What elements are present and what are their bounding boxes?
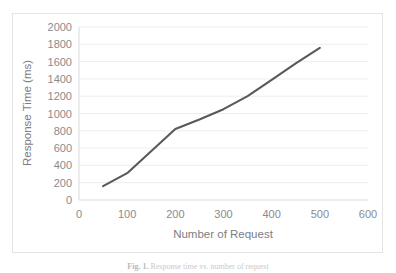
x-tick-label: 400	[262, 208, 280, 220]
y-axis-title: Response Time (ms)	[21, 60, 33, 166]
y-tick-label: 600	[54, 142, 72, 154]
x-tick-label: 300	[214, 208, 232, 220]
x-tick-label: 0	[76, 208, 82, 220]
y-tick-label: 400	[54, 159, 72, 171]
y-tick-label: 200	[54, 177, 72, 189]
x-axis-title: Number of Request	[173, 228, 274, 240]
x-tick-label: 200	[166, 208, 184, 220]
y-tick-label: 0	[66, 194, 72, 206]
chart-image-frame: 0200400600800100012001400160018002000 01…	[12, 13, 383, 253]
figure-caption: Fig. 1. Response time vs. number of requ…	[0, 262, 396, 271]
y-tick-label: 1800	[48, 38, 72, 50]
y-tick-label: 2000	[48, 21, 72, 33]
figure-caption-label: Fig. 1.	[127, 262, 148, 271]
line-chart: 0200400600800100012001400160018002000 01…	[13, 14, 382, 252]
x-tick-label: 100	[118, 208, 136, 220]
figure-root: 0200400600800100012001400160018002000 01…	[0, 0, 396, 273]
y-tick-label: 1200	[48, 90, 72, 102]
x-tick-label: 600	[359, 208, 377, 220]
y-tick-label: 1000	[48, 108, 72, 120]
figure-caption-text: Response time vs. number of request	[150, 262, 268, 271]
x-tick-label: 500	[311, 208, 329, 220]
y-tick-label: 1600	[48, 56, 72, 68]
y-tick-label: 1400	[48, 73, 72, 85]
y-tick-label: 800	[54, 125, 72, 137]
